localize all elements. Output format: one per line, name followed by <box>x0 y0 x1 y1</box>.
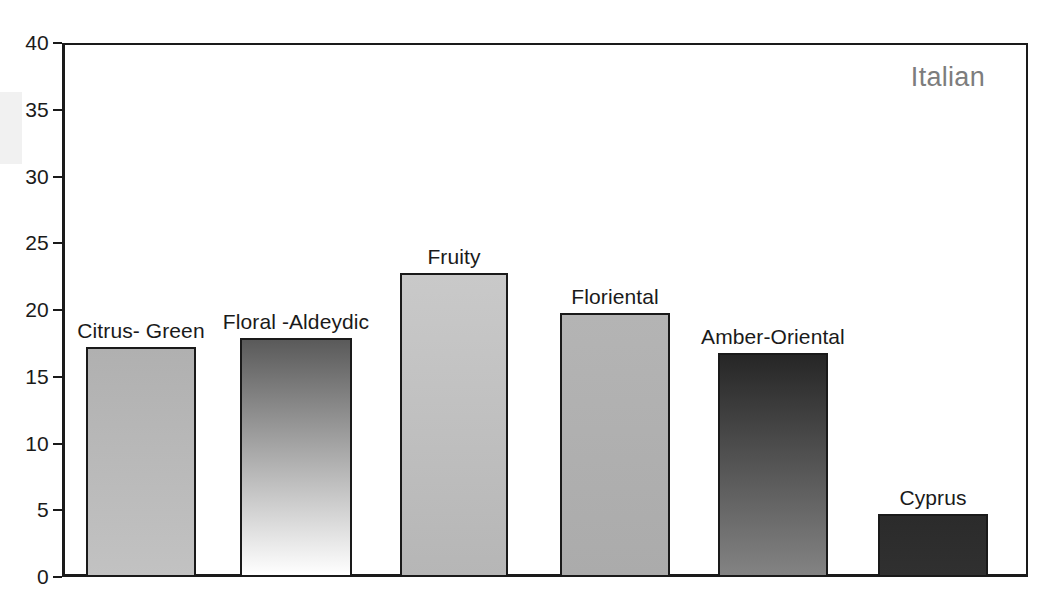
bar-group[interactable]: Floral -Aldeydic <box>240 304 352 577</box>
bar-category-label: Cyprus <box>899 486 966 510</box>
bar-group[interactable]: Fruity <box>400 239 508 577</box>
bar-rect[interactable] <box>718 353 828 577</box>
bar-rect[interactable] <box>240 338 352 577</box>
bar-rect[interactable] <box>86 347 196 577</box>
bar-group[interactable]: Cyprus <box>878 480 988 577</box>
bar-group[interactable]: Amber-Oriental <box>718 319 828 577</box>
bar-chart: 0510152025303540 Citrus- GreenFloral -Al… <box>0 0 1045 612</box>
bar-category-label: Amber-Oriental <box>701 325 845 349</box>
bar-rect[interactable] <box>400 273 508 577</box>
bar-rect[interactable] <box>878 514 988 577</box>
bars-layer: Citrus- GreenFloral -AldeydicFruityFlori… <box>0 0 1045 612</box>
bar-category-label: Citrus- Green <box>77 319 204 343</box>
bar-category-label: Floriental <box>571 285 658 309</box>
bar-category-label: Floral -Aldeydic <box>223 310 369 334</box>
bar-rect[interactable] <box>560 313 670 577</box>
bar-group[interactable]: Floriental <box>560 279 670 577</box>
bar-group[interactable]: Citrus- Green <box>86 313 196 577</box>
bar-category-label: Fruity <box>427 245 480 269</box>
series-annotation-label: Italian <box>911 62 985 93</box>
